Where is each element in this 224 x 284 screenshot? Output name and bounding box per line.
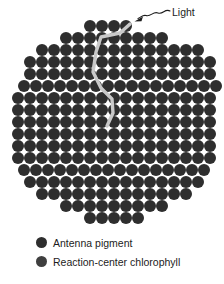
antenna-pigment	[132, 56, 145, 69]
antenna-pigment	[168, 188, 181, 201]
antenna-pigment	[96, 200, 109, 213]
antenna-pigment	[144, 56, 157, 69]
antenna-pigment	[120, 140, 133, 153]
antenna-pigment	[48, 104, 61, 117]
antenna-pigment	[132, 200, 145, 213]
antenna-pigment	[72, 68, 85, 81]
antenna-pigment	[108, 176, 121, 189]
antenna-pigment	[120, 68, 133, 81]
antenna-pigment	[72, 32, 85, 45]
antenna-pigment	[108, 152, 121, 165]
antenna-pigment	[36, 116, 49, 129]
antenna-pigment	[72, 92, 85, 105]
antenna-pigment	[96, 188, 109, 201]
antenna-pigment	[90, 164, 103, 177]
antenna-pigment	[12, 116, 25, 129]
antenna-pigment	[144, 128, 157, 141]
antenna-pigment	[192, 92, 205, 105]
legend: Antenna pigment Reaction-center chloroph…	[36, 233, 224, 271]
antenna-pigment	[108, 92, 121, 105]
antenna-pigment	[48, 44, 61, 57]
antenna-pigment	[96, 92, 109, 105]
antenna-pigment	[66, 80, 79, 93]
antenna-pigment	[24, 140, 37, 153]
antenna-pigment	[180, 140, 193, 153]
antenna-pigment	[180, 176, 193, 189]
antenna-pigment	[168, 152, 181, 165]
antenna-pigment	[108, 140, 121, 153]
antenna-pigment	[120, 32, 133, 45]
antenna-pigment	[144, 68, 157, 81]
antenna-pigment	[48, 128, 61, 141]
legend-item-label: Antenna pigment	[53, 237, 132, 249]
antenna-pigment	[204, 128, 217, 141]
antenna-pigment	[72, 104, 85, 117]
antenna-pigment	[102, 80, 115, 93]
antenna-pigment	[48, 152, 61, 165]
antenna-pigment	[132, 140, 145, 153]
antenna-pigment	[192, 176, 205, 189]
antenna-pigment	[168, 116, 181, 129]
antenna-pigment	[84, 104, 97, 117]
antenna-pigment	[156, 92, 169, 105]
antenna-pigment	[192, 116, 205, 129]
antenna-pigment	[72, 200, 85, 213]
antenna-pigment	[192, 152, 205, 165]
antenna-pigment	[84, 188, 97, 201]
antenna-pigment	[84, 32, 97, 45]
antenna-pigment	[96, 176, 109, 189]
antenna-pigment	[84, 44, 97, 57]
antenna-pigment	[96, 128, 109, 141]
antenna-pigment	[96, 116, 109, 129]
antenna-pigment	[108, 104, 121, 117]
antenna-pigment	[120, 200, 133, 213]
antenna-pigment	[108, 32, 121, 45]
antenna-pigment	[132, 212, 145, 225]
antenna-pigment	[12, 92, 25, 105]
antenna-pigment	[60, 44, 73, 57]
antenna-pigment	[156, 200, 169, 213]
antenna-pigment	[204, 116, 217, 129]
antenna-pigment	[108, 44, 121, 57]
antenna-pigment	[204, 68, 217, 81]
antenna-pigment	[102, 164, 115, 177]
antenna-pigment	[12, 152, 25, 165]
antenna-pigment	[60, 128, 73, 141]
antenna-pigment	[108, 20, 121, 33]
antenna-pigment	[24, 116, 37, 129]
antenna-pigment	[12, 128, 25, 141]
antenna-pigment	[96, 68, 109, 81]
antenna-pigment	[120, 212, 133, 225]
antenna-pigment	[84, 128, 97, 141]
antenna-pigment	[144, 116, 157, 129]
antenna-pigment	[168, 68, 181, 81]
antenna-pigment	[24, 176, 37, 189]
antenna-pigment	[36, 68, 49, 81]
filled-circle-icon	[36, 256, 47, 267]
antenna-pigment	[156, 152, 169, 165]
antenna-pigment	[162, 80, 175, 93]
antenna-pigment	[180, 128, 193, 141]
antenna-pigment	[156, 32, 169, 45]
legend-item-label: Reaction-center chlorophyll	[53, 256, 180, 268]
antenna-pigment	[180, 104, 193, 117]
antenna-pigment	[132, 104, 145, 117]
antenna-pigment	[30, 164, 43, 177]
filled-circle-icon	[36, 237, 47, 248]
antenna-pigment	[36, 188, 49, 201]
antenna-pigment	[84, 116, 97, 129]
antenna-pigment	[132, 116, 145, 129]
antenna-pigment	[192, 104, 205, 117]
antenna-pigment	[60, 140, 73, 153]
antenna-pigment	[36, 128, 49, 141]
antenna-pigment	[132, 44, 145, 57]
antenna-pigment	[60, 188, 73, 201]
antenna-pigment	[180, 116, 193, 129]
antenna-pigment	[90, 80, 103, 93]
antenna-pigment	[96, 32, 109, 45]
antenna-pigment	[48, 140, 61, 153]
antenna-pigment	[132, 128, 145, 141]
antenna-pigment	[72, 44, 85, 57]
antenna-pigment	[48, 56, 61, 69]
antenna-pigment	[192, 44, 205, 57]
